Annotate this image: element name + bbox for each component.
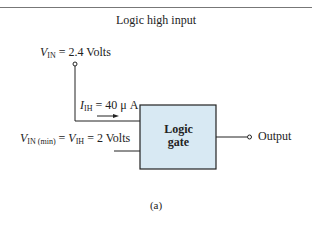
iih-label: IIH = 40 μ A bbox=[80, 99, 138, 111]
vin-min-label: VIN (min) = VIH = 2 Volts bbox=[20, 132, 130, 144]
vin-label: VIN = 2.4 Volts bbox=[40, 46, 111, 58]
figure-caption: (a) bbox=[0, 199, 312, 211]
gate-label-line2: gate bbox=[140, 136, 217, 149]
gate-label: Logic gate bbox=[140, 123, 217, 149]
output-terminal-icon bbox=[248, 135, 252, 139]
circuit-wires bbox=[0, 0, 312, 232]
input-terminal-icon bbox=[73, 62, 77, 66]
output-label: Output bbox=[258, 130, 291, 142]
